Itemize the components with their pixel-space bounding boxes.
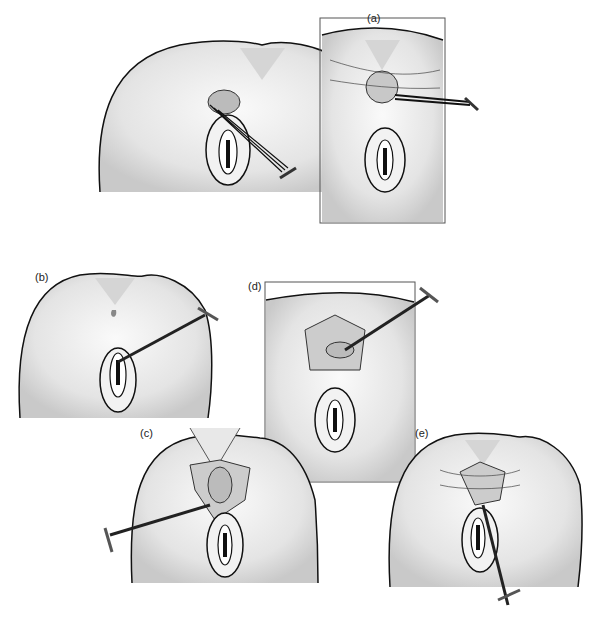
- panel-a-inset: [320, 18, 478, 223]
- panel-label-b: (b): [35, 271, 48, 283]
- panel-c: [105, 428, 318, 583]
- panel-e: [389, 433, 582, 605]
- panel-label-e: (e): [415, 427, 428, 439]
- panel-label-a: (a): [367, 12, 380, 24]
- panel-b: [19, 273, 218, 418]
- surgical-illustration: [0, 0, 593, 622]
- panel-label-c: (c): [140, 427, 153, 439]
- panel-label-d: (d): [248, 280, 261, 292]
